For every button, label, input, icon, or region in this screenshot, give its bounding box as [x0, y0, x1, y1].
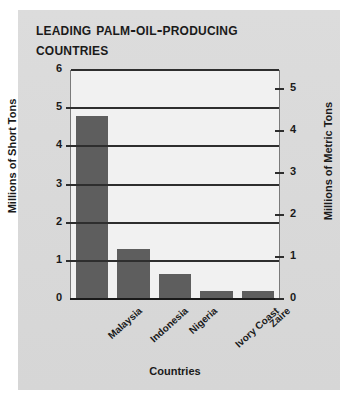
y-tick-right [275, 298, 284, 300]
y-axis-left-title: Millions of Short Tons [6, 76, 18, 236]
y-tick-label-left: 5 [42, 100, 62, 112]
y-tick-right [275, 88, 284, 90]
y-tick-label-left: 3 [42, 177, 62, 189]
gridline [71, 260, 279, 262]
y-tick-right [275, 172, 284, 174]
chart-title: Leading Palm-Oil-Producing Countries [36, 20, 298, 60]
gridline [71, 184, 279, 186]
bar [159, 274, 191, 299]
axis-baseline [70, 298, 280, 300]
y-tick-right [275, 256, 284, 258]
y-tick-label-right: 5 [290, 81, 310, 93]
bar [76, 116, 108, 299]
y-tick-label-right: 4 [290, 123, 310, 135]
bar [117, 249, 149, 299]
y-tick-label-right: 3 [290, 165, 310, 177]
y-tick-label-left: 0 [42, 291, 62, 303]
y-tick-label-right: 1 [290, 249, 310, 261]
y-tick-right [275, 214, 284, 216]
y-tick-label-left: 1 [42, 253, 62, 265]
gridline [71, 69, 279, 71]
y-tick-label-left: 4 [42, 138, 62, 150]
y-tick-left [66, 222, 73, 224]
gridline [71, 222, 279, 224]
x-axis-title: Countries [70, 365, 280, 377]
y-tick-right [275, 130, 284, 132]
x-tick-label: Malaysia [105, 305, 143, 341]
y-tick-left [66, 107, 73, 109]
y-tick-left [66, 260, 73, 262]
y-tick-left [66, 145, 73, 147]
y-tick-label-left: 6 [42, 62, 62, 74]
plot-area [70, 70, 280, 299]
y-axis-right-title: Millions of Metric Tons [322, 81, 334, 241]
x-tick-label: Indonesia [148, 305, 190, 344]
gridline [71, 107, 279, 109]
gridline [71, 145, 279, 147]
y-tick-label-right: 0 [290, 291, 310, 303]
y-tick-left [66, 184, 73, 186]
y-tick-label-left: 2 [42, 215, 62, 227]
x-tick-label: Nigeria [187, 305, 220, 336]
y-tick-label-right: 2 [290, 207, 310, 219]
chart-figure: Leading Palm-Oil-Producing Countries Mil… [18, 10, 340, 390]
